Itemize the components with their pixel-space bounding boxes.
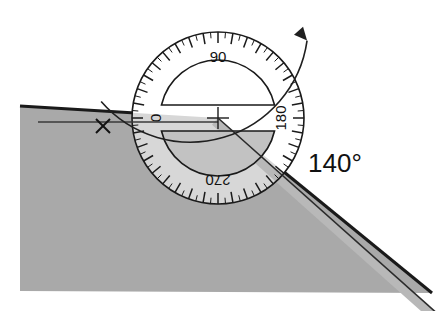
protractor-label-0: 0	[148, 114, 165, 122]
protractor-tick	[132, 111, 138, 112]
protractor-tick	[225, 32, 226, 38]
angle-arc-arrowhead	[294, 27, 307, 41]
protractor-tick	[298, 125, 304, 126]
angle-value-label: 140°	[308, 148, 362, 178]
protractor-label-90: 90	[210, 48, 227, 65]
protractor-tick	[132, 125, 138, 126]
protractor-label-180: 180	[272, 105, 289, 130]
protractor-tick	[211, 198, 212, 204]
protractor-label-270: 270	[205, 172, 230, 189]
diagram-canvas: 090180270140°	[0, 0, 445, 311]
protractor-tick	[225, 198, 226, 204]
protractor-tick	[298, 111, 304, 112]
protractor-tick	[211, 32, 212, 38]
protractor-figure: 090180270140°	[0, 0, 445, 311]
